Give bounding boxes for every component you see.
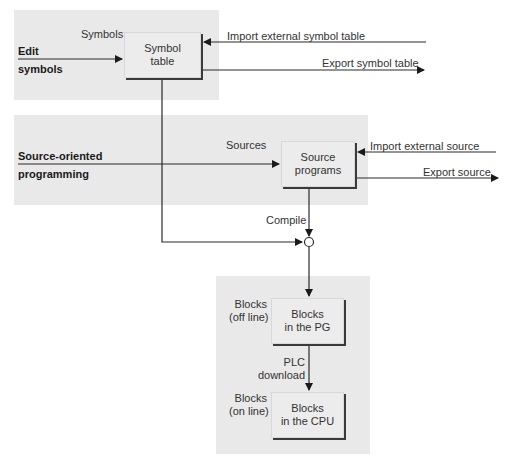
plc-download-label: PLC download <box>255 356 305 382</box>
symbols-input-label: Symbols <box>81 28 123 41</box>
blocks-online-label: Blocks (on line) <box>229 392 267 418</box>
edit-symbols-label: Edit <box>18 45 39 58</box>
compile-label: Compile <box>266 214 306 227</box>
source-programs-box[interactable]: Source programs <box>281 141 355 187</box>
sources-input-label: Sources <box>226 139 266 152</box>
edit-symbols-label-line2: symbols <box>18 63 63 76</box>
export-source-label: Export source <box>423 166 491 179</box>
blocks-in-pg-line1: Blocks <box>291 308 323 321</box>
symbol-table-line2: table <box>151 55 175 68</box>
source-oriented-label: Source-oriented <box>18 150 102 163</box>
blocks-offline-label: Blocks (off line) <box>229 298 267 324</box>
import-symbol-table-label: Import external symbol table <box>227 30 365 43</box>
import-external-source-label: Import external source <box>370 140 479 153</box>
blocks-in-cpu-line1: Blocks <box>291 402 323 415</box>
blocks-in-pg-box[interactable]: Blocks in the PG <box>271 298 344 344</box>
symbol-table-box[interactable]: Symbol table <box>124 32 201 78</box>
programming-label: programming <box>18 168 89 181</box>
blocks-in-cpu-line2: in the CPU <box>281 415 334 428</box>
source-programs-line1: Source <box>301 151 336 164</box>
export-symbol-table-label: Export symbol table <box>322 57 419 70</box>
blocks-in-pg-line2: in the PG <box>285 321 331 334</box>
source-programs-line2: programs <box>295 164 341 177</box>
junction-node <box>305 238 314 247</box>
blocks-in-cpu-box[interactable]: Blocks in the CPU <box>271 392 344 438</box>
symbol-table-line1: Symbol <box>144 42 181 55</box>
